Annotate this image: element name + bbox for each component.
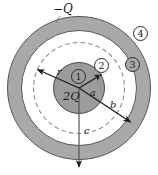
region-badge-2-label: 2 — [98, 61, 104, 71]
inner-charge-label: 2Q — [63, 91, 80, 103]
region-badge-1: 1 — [71, 69, 86, 84]
region-badge-4: 4 — [133, 26, 148, 41]
radius-label-r: r — [57, 67, 62, 77]
radius-label-c: c — [84, 126, 90, 136]
region-badge-3-label: 3 — [129, 60, 135, 70]
region-badge-2: 2 — [94, 58, 109, 73]
physics-diagram-figure: −Q 2Q r a b c 1 2 3 4 — [0, 0, 158, 175]
radius-label-a: a — [90, 88, 96, 98]
region-badge-3: 3 — [125, 57, 140, 72]
region-badge-4-label: 4 — [137, 29, 143, 39]
region-badge-1-label: 1 — [75, 72, 81, 82]
diagram-canvas — [0, 0, 158, 175]
radius-label-b: b — [110, 100, 116, 110]
shell-charge-label: −Q — [53, 3, 73, 15]
